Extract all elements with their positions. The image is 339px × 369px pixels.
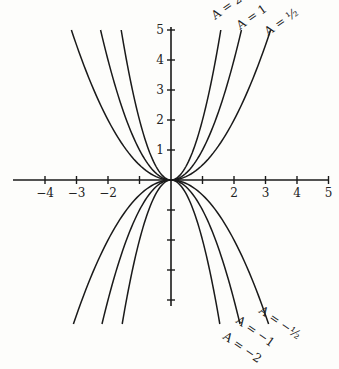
- y-tick-label: 3: [156, 83, 164, 97]
- y-tick-label: 5: [156, 23, 164, 37]
- y-tick-label: 2: [156, 113, 164, 127]
- parabola-family-chart: −4−3−2234512345 A = 2A = 1A = ½A = −2A =…: [0, 0, 339, 369]
- x-tick-label: 5: [325, 186, 333, 200]
- x-tick-label: −2: [99, 186, 117, 200]
- x-tick-label: −3: [68, 186, 86, 200]
- curve-labels: A = 2A = 1A = ½A = −2A = −1A = −½: [208, 0, 304, 366]
- x-tick-label: −4: [36, 186, 54, 200]
- y-tick-label: 4: [156, 53, 164, 67]
- x-tick-label: 3: [262, 186, 270, 200]
- x-tick-label: 2: [230, 186, 238, 200]
- axes: −4−3−2234512345: [13, 23, 332, 306]
- y-tick-label: 1: [156, 143, 164, 157]
- x-tick-label: 4: [293, 186, 301, 200]
